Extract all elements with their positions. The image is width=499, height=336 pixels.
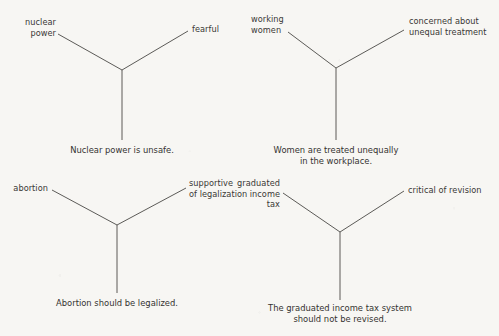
right-arm-line — [117, 188, 186, 225]
left-arm-line — [58, 34, 122, 70]
right-arm-line — [336, 30, 404, 68]
right-arm-line — [122, 31, 188, 70]
diagram-graduated-income-tax-right-label: critical of revision — [408, 185, 498, 196]
diagram-connector-lines — [0, 0, 499, 336]
diagram-nuclear-power-left-label: nuclear power — [0, 17, 56, 38]
diagram-abortion-claim: Abortion should be legalized. — [37, 298, 197, 309]
y-connector-graduated-income-tax — [283, 191, 404, 300]
left-arm-line — [288, 32, 336, 68]
diagram-working-women-claim: Women are treated unequally in the workp… — [256, 145, 416, 167]
diagram-working-women-left-label: working women — [251, 14, 311, 35]
diagram-graduated-income-tax-claim: The graduated income tax system should n… — [260, 303, 420, 325]
worksheet-page: nuclear power fearful Nuclear power is u… — [0, 0, 499, 336]
diagram-abortion-left-label: abortion — [0, 183, 48, 194]
y-connector-working-women — [288, 30, 404, 140]
diagram-working-women-right-label: concerned about unequal treatment — [409, 16, 499, 37]
y-connector-nuclear-power — [58, 31, 188, 140]
left-arm-line — [52, 190, 117, 225]
left-arm-line — [283, 193, 340, 232]
y-connector-abortion — [52, 188, 186, 293]
diagram-nuclear-power-right-label: fearful — [192, 24, 252, 35]
diagram-nuclear-power-claim: Nuclear power is unsafe. — [42, 145, 202, 156]
right-arm-line — [340, 191, 404, 232]
diagram-graduated-income-tax-left-label: graduated income tax — [236, 178, 280, 210]
